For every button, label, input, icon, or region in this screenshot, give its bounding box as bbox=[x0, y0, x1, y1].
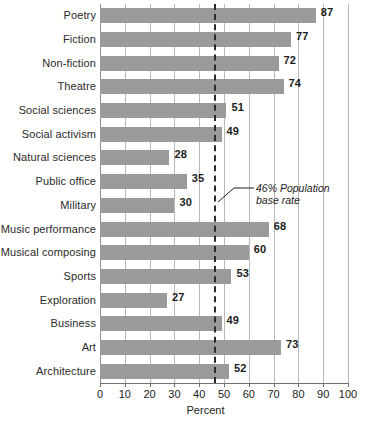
x-tick-label-50: 50 bbox=[218, 388, 230, 400]
category-label: Social sciences bbox=[0, 104, 96, 116]
bar-value-label: 28 bbox=[174, 148, 187, 160]
bar-row: 77 bbox=[100, 32, 365, 47]
bar bbox=[100, 150, 169, 165]
x-tick-label-80: 80 bbox=[292, 388, 304, 400]
x-tick-80 bbox=[298, 383, 299, 387]
bar-value-label: 73 bbox=[286, 338, 299, 350]
x-tick-label-40: 40 bbox=[193, 388, 205, 400]
bar-row: 49 bbox=[100, 316, 365, 331]
bar-row: 53 bbox=[100, 269, 365, 284]
population-base-rate-line bbox=[214, 4, 216, 383]
bar bbox=[100, 364, 229, 379]
category-label: Art bbox=[0, 341, 96, 353]
bar-row: 73 bbox=[100, 340, 365, 355]
bar-value-label: 74 bbox=[289, 77, 302, 89]
annotation-line-1: 46% Population bbox=[256, 182, 330, 194]
category-axis-labels: PoetryFictionNon-fictionTheatreSocial sc… bbox=[0, 4, 96, 383]
x-axis-title: Percent bbox=[0, 404, 365, 416]
category-label: Sports bbox=[0, 270, 96, 282]
x-tick-label-0: 0 bbox=[97, 388, 103, 400]
x-tick-0 bbox=[100, 383, 101, 387]
x-tick-100 bbox=[348, 383, 349, 387]
x-tick-label-90: 90 bbox=[317, 388, 329, 400]
bar-value-label: 51 bbox=[231, 101, 244, 113]
bar bbox=[100, 103, 226, 118]
category-label: Non-fiction bbox=[0, 57, 96, 69]
bar bbox=[100, 56, 279, 71]
category-label: Public office bbox=[0, 175, 96, 187]
bar-value-label: 49 bbox=[227, 125, 240, 137]
bar-value-label: 87 bbox=[321, 6, 334, 18]
bar bbox=[100, 8, 316, 23]
category-label: Social activism bbox=[0, 128, 96, 140]
bar-value-label: 49 bbox=[227, 314, 240, 326]
bar bbox=[100, 340, 281, 355]
annotation-leader-line bbox=[218, 182, 258, 206]
category-label: Fiction bbox=[0, 33, 96, 45]
x-tick-30 bbox=[174, 383, 175, 387]
bar-row: 51 bbox=[100, 103, 365, 118]
x-tick-20 bbox=[150, 383, 151, 387]
bar bbox=[100, 79, 284, 94]
bar-value-label: 68 bbox=[274, 220, 287, 232]
category-label: Theatre bbox=[0, 80, 96, 92]
x-tick-label-30: 30 bbox=[168, 388, 180, 400]
bar bbox=[100, 174, 187, 189]
x-tick-label-60: 60 bbox=[243, 388, 255, 400]
bar-value-label: 72 bbox=[284, 54, 297, 66]
x-tick-label-100: 100 bbox=[339, 388, 357, 400]
category-label: Military bbox=[0, 199, 96, 211]
category-label: Business bbox=[0, 317, 96, 329]
bar bbox=[100, 127, 222, 142]
bar-row: 49 bbox=[100, 127, 365, 142]
bar-row: 74 bbox=[100, 79, 365, 94]
x-tick-label-20: 20 bbox=[143, 388, 155, 400]
x-axis-title-text: Percent bbox=[187, 404, 225, 416]
annotation-line-2: base rate bbox=[256, 194, 330, 206]
x-tick-60 bbox=[249, 383, 250, 387]
bar-value-label: 30 bbox=[179, 196, 192, 208]
bar-row: 87 bbox=[100, 8, 365, 23]
bar-row: 68 bbox=[100, 222, 365, 237]
category-label: Exploration bbox=[0, 294, 96, 306]
category-label: Poetry bbox=[0, 9, 96, 21]
x-tick-70 bbox=[274, 383, 275, 387]
category-label: Musical composing bbox=[0, 246, 96, 258]
x-tick-90 bbox=[323, 383, 324, 387]
bar-value-label: 53 bbox=[236, 267, 249, 279]
bar-row: 27 bbox=[100, 293, 365, 308]
bar-value-label: 77 bbox=[296, 30, 309, 42]
category-label: Music performance bbox=[0, 223, 96, 235]
bar-row: 52 bbox=[100, 364, 365, 379]
bar bbox=[100, 32, 291, 47]
x-tick-10 bbox=[125, 383, 126, 387]
bar-row: 28 bbox=[100, 150, 365, 165]
bar-chart: PoetryFictionNon-fictionTheatreSocial sc… bbox=[0, 0, 365, 422]
bar bbox=[100, 245, 249, 260]
bar-value-label: 35 bbox=[192, 172, 205, 184]
x-tick-50 bbox=[224, 383, 225, 387]
x-tick-label-70: 70 bbox=[267, 388, 279, 400]
x-tick-40 bbox=[199, 383, 200, 387]
bar-value-label: 60 bbox=[254, 243, 267, 255]
x-tick-label-10: 10 bbox=[119, 388, 131, 400]
bar bbox=[100, 198, 174, 213]
population-base-rate-annotation: 46% Population base rate bbox=[256, 182, 330, 206]
bar-row: 60 bbox=[100, 245, 365, 260]
category-label: Architecture bbox=[0, 365, 96, 377]
bar bbox=[100, 293, 167, 308]
bar-row: 72 bbox=[100, 56, 365, 71]
bar bbox=[100, 222, 269, 237]
bar bbox=[100, 269, 231, 284]
category-label: Natural sciences bbox=[0, 151, 96, 163]
bar-value-label: 52 bbox=[234, 362, 247, 374]
bar-value-label: 27 bbox=[172, 291, 185, 303]
bar bbox=[100, 316, 222, 331]
